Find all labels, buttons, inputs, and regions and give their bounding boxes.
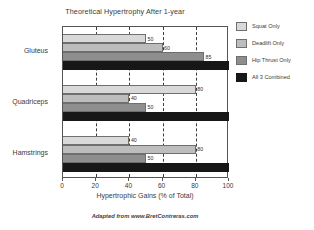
legend-label: All 3 Combined bbox=[252, 74, 290, 80]
bar-value-label: 50 bbox=[146, 155, 153, 161]
bar[interactable] bbox=[63, 112, 229, 121]
legend-label: Squat Only bbox=[252, 23, 280, 29]
bar[interactable] bbox=[63, 136, 129, 145]
legend-label: Hip Thrust Only bbox=[252, 57, 291, 63]
x-tick-label: 20 bbox=[85, 182, 105, 189]
bar[interactable] bbox=[63, 34, 146, 43]
x-tick-mark bbox=[195, 178, 196, 181]
x-tick-label: 60 bbox=[152, 182, 172, 189]
y-category-label: Quadriceps bbox=[12, 98, 48, 105]
legend-item[interactable]: All 3 Combined bbox=[236, 69, 312, 85]
bar-row: 50 bbox=[63, 154, 229, 163]
bar-value-label: 50 bbox=[146, 36, 153, 42]
bar-value-label: 40 bbox=[129, 95, 136, 101]
legend-swatch-icon bbox=[236, 73, 247, 82]
bar-row: 40 bbox=[63, 94, 229, 103]
plot-inner: 506085804050408050 bbox=[63, 27, 227, 177]
bar-group: 408050 bbox=[63, 128, 227, 179]
bar[interactable] bbox=[63, 52, 204, 61]
legend-label: Deadlift Only bbox=[252, 40, 284, 46]
x-tick-mark bbox=[128, 178, 129, 181]
bar[interactable] bbox=[63, 154, 146, 163]
bar-row: 50 bbox=[63, 103, 229, 112]
legend-item[interactable]: Hip Thrust Only bbox=[236, 52, 312, 68]
legend-swatch-icon bbox=[236, 22, 247, 31]
source-note: Adapted from www.BretContreras.com bbox=[0, 213, 290, 219]
chart-legend: Squat OnlyDeadlift OnlyHip Thrust OnlyAl… bbox=[236, 18, 312, 86]
x-tick-mark bbox=[228, 178, 229, 181]
legend-item[interactable]: Squat Only bbox=[236, 18, 312, 34]
bar-group: 804050 bbox=[63, 78, 227, 129]
bar-row: 80 bbox=[63, 85, 229, 94]
chart-figure: Theoretical Hypertrophy After 1-year 506… bbox=[0, 0, 314, 230]
bar-value-label: 85 bbox=[204, 54, 211, 60]
bar[interactable] bbox=[63, 85, 196, 94]
bar-group: 506085 bbox=[63, 27, 227, 78]
x-tick-label: 40 bbox=[118, 182, 138, 189]
bar[interactable] bbox=[63, 61, 229, 70]
bar-row: 85 bbox=[63, 52, 229, 61]
bar[interactable] bbox=[63, 103, 146, 112]
bar-value-label: 80 bbox=[196, 146, 203, 152]
bar-value-label: 50 bbox=[146, 104, 153, 110]
legend-swatch-icon bbox=[236, 56, 247, 65]
bar-row bbox=[63, 61, 229, 70]
chart-title: Theoretical Hypertrophy After 1-year bbox=[0, 7, 250, 16]
bar-row: 40 bbox=[63, 136, 229, 145]
x-tick-mark bbox=[62, 178, 63, 181]
bar-row: 50 bbox=[63, 34, 229, 43]
bar-value-label: 80 bbox=[196, 86, 203, 92]
x-tick-mark bbox=[162, 178, 163, 181]
y-category-label: Gluteus bbox=[24, 47, 48, 54]
plot-area: 506085804050408050 bbox=[62, 26, 228, 178]
bar-row bbox=[63, 163, 229, 172]
bar-row: 60 bbox=[63, 43, 229, 52]
bar[interactable] bbox=[63, 145, 196, 154]
x-tick-label: 80 bbox=[185, 182, 205, 189]
bar-row: 80 bbox=[63, 145, 229, 154]
x-tick-label: 0 bbox=[52, 182, 72, 189]
bar[interactable] bbox=[63, 43, 163, 52]
y-category-label: Hamstrings bbox=[13, 149, 48, 156]
legend-swatch-icon bbox=[236, 39, 247, 48]
legend-item[interactable]: Deadlift Only bbox=[236, 35, 312, 51]
x-tick-label: 100 bbox=[218, 182, 238, 189]
bar-row bbox=[63, 112, 229, 121]
bar-value-label: 60 bbox=[163, 45, 170, 51]
x-axis-title: Hypertrophic Gains (% of Total) bbox=[40, 192, 250, 199]
bar[interactable] bbox=[63, 94, 129, 103]
x-tick-mark bbox=[95, 178, 96, 181]
bar[interactable] bbox=[63, 163, 229, 172]
bar-value-label: 40 bbox=[129, 137, 136, 143]
